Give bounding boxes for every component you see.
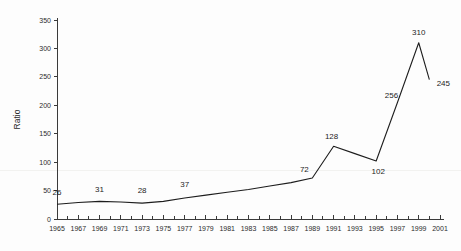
y-tick-label: 100 bbox=[39, 159, 51, 166]
data-point-label: 310 bbox=[412, 28, 426, 37]
x-tick-label: 1981 bbox=[219, 225, 235, 232]
x-tick-label: 1973 bbox=[134, 225, 150, 232]
y-tick-label: 150 bbox=[39, 130, 51, 137]
data-point-label: 128 bbox=[325, 132, 339, 141]
x-tick-label: 1995 bbox=[368, 225, 384, 232]
x-tick-label: 1983 bbox=[241, 225, 257, 232]
x-tick-label: 1989 bbox=[305, 225, 321, 232]
x-tick-label: 1977 bbox=[177, 225, 193, 232]
y-tick-label: 50 bbox=[43, 187, 51, 194]
chart-page: 0501001502002503003501965196719691971197… bbox=[0, 0, 461, 251]
x-tick-label: 1975 bbox=[156, 225, 172, 232]
data-series-line bbox=[57, 43, 429, 204]
data-point-label: 245 bbox=[437, 79, 451, 88]
x-tick-label: 1993 bbox=[347, 225, 363, 232]
x-tick-label: 1987 bbox=[283, 225, 299, 232]
data-point-label: 28 bbox=[138, 186, 147, 195]
y-tick-label: 350 bbox=[39, 17, 51, 24]
x-tick-label: 1967 bbox=[70, 225, 86, 232]
y-axis-title: Ratio bbox=[12, 109, 22, 129]
x-tick-label: 1979 bbox=[198, 225, 214, 232]
data-point-label: 256 bbox=[385, 91, 399, 100]
x-tick-label: 1999 bbox=[411, 225, 427, 232]
x-tick-label: 1997 bbox=[390, 225, 406, 232]
data-point-label: 31 bbox=[95, 185, 104, 194]
y-tick-label: 200 bbox=[39, 102, 51, 109]
x-tick-label: 1991 bbox=[326, 225, 342, 232]
line-chart: 0501001502002503003501965196719691971197… bbox=[0, 0, 461, 251]
x-tick-label: 1985 bbox=[262, 225, 278, 232]
x-tick-label: 1971 bbox=[113, 225, 129, 232]
data-point-label: 26 bbox=[53, 188, 62, 197]
x-tick-label: 1965 bbox=[49, 225, 65, 232]
data-point-label: 102 bbox=[371, 167, 385, 176]
x-tick-label: 1969 bbox=[92, 225, 108, 232]
x-tick-label: 2001 bbox=[432, 225, 448, 232]
data-point-label: 37 bbox=[180, 180, 189, 189]
y-tick-label: 300 bbox=[39, 45, 51, 52]
data-point-label: 72 bbox=[300, 165, 309, 174]
y-tick-label: 0 bbox=[47, 216, 51, 223]
y-tick-label: 250 bbox=[39, 73, 51, 80]
